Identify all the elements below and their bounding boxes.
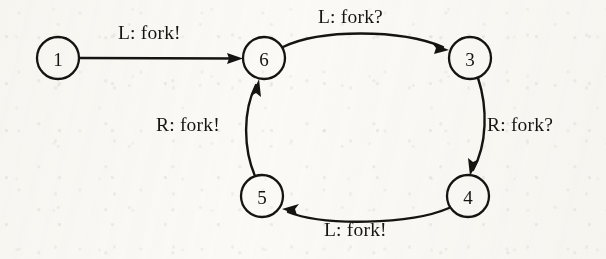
edge-3-to-4 [468,78,485,176]
edge-1-to-6-path [80,58,237,59]
edge-3-to-4-arrowhead [468,158,479,176]
edge-label-5-to-6: R: fork! [156,114,220,136]
edge-6-to-3-arrowhead [432,43,449,54]
node-6-label: 6 [259,49,269,70]
node-4[interactable]: 4 [447,175,489,217]
node-5-label: 5 [257,187,267,208]
node-4-label: 4 [463,187,473,208]
edge-5-to-6-arrowhead [251,79,261,97]
edge-5-to-6 [246,79,261,176]
edge-label-3-to-4: R: fork? [487,114,553,136]
node-1-label: 1 [53,49,63,70]
edge-1-to-6 [80,53,243,64]
node-1[interactable]: 1 [37,37,79,79]
edge-1-to-6-arrowhead [227,53,243,64]
edge-3-to-4-path [473,78,485,170]
edge-5-to-6-path [246,85,256,176]
node-3[interactable]: 3 [449,37,491,79]
diagram-canvas: 1 6 3 4 5 L: fork! L: fork? R: fork? L: … [0,0,606,259]
edge-label-1-to-6: L: fork! [118,22,181,44]
node-3-label: 3 [465,49,475,70]
edge-6-to-3 [283,34,449,55]
edge-label-6-to-3: L: fork? [318,6,383,28]
node-6[interactable]: 6 [243,37,285,79]
edge-6-to-3-path [283,34,443,48]
edge-label-4-to-5: L: fork! [324,219,387,241]
node-5[interactable]: 5 [241,175,283,217]
